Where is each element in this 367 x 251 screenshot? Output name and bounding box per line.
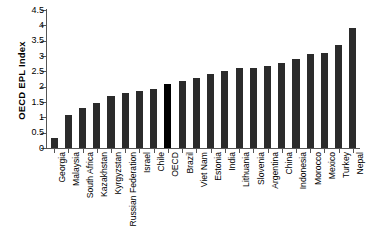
bar <box>93 103 100 148</box>
chart-container: OECD EPL Index 4.543.532.521.510.50 Geor… <box>0 0 367 251</box>
bar <box>264 66 271 148</box>
x-axis-tick-label: Kazakhstan <box>100 152 109 197</box>
bar-series <box>47 10 360 148</box>
x-axis-tick-label: OECD <box>171 152 180 177</box>
x-axis-tick-label: Indonesia <box>299 152 308 189</box>
bar <box>349 28 356 148</box>
x-axis-tick-label: Georgia <box>58 152 67 183</box>
bar <box>107 96 114 148</box>
bar <box>164 84 171 148</box>
bar <box>250 68 257 148</box>
y-axis-tick-label: 2.5 <box>4 67 44 76</box>
bar <box>122 93 129 148</box>
y-axis-tick-label: 0 <box>4 144 44 153</box>
x-axis-tick-label: Morocco <box>314 152 323 185</box>
y-axis-tick-label: 1.5 <box>4 98 44 107</box>
x-axis-tick-label: China <box>285 152 294 174</box>
bar <box>236 68 243 148</box>
x-axis-tick-label: Brazil <box>186 152 195 174</box>
x-axis-tick-label: Viet Nam <box>200 152 209 187</box>
y-axis-tick-label: 1 <box>4 113 44 122</box>
x-axis-tick-label: Argentina <box>271 152 280 189</box>
x-axis-tick-label: India <box>228 152 237 171</box>
x-axis-tick-label: Slovenia <box>257 152 266 185</box>
bar <box>335 45 342 148</box>
bar <box>321 53 328 148</box>
bar <box>65 115 72 148</box>
y-axis-tick-label: 2 <box>4 82 44 91</box>
y-axis-tick-label: 3 <box>4 52 44 61</box>
y-axis-tick-label: 4.5 <box>4 6 44 15</box>
y-axis-tick-label: 4 <box>4 21 44 30</box>
bar <box>150 89 157 148</box>
bar <box>278 63 285 148</box>
x-axis-tick-label: Kyrgyzstan <box>114 152 123 195</box>
x-axis-tick-label: Israel <box>143 152 152 173</box>
bar <box>136 91 143 148</box>
x-axis-tick-label: Nepal <box>356 152 365 174</box>
x-axis-tick-label: Chile <box>157 152 166 172</box>
bar <box>207 74 214 148</box>
bar <box>51 138 58 148</box>
bar <box>193 78 200 148</box>
x-axis-tick-label: Lithuania <box>242 152 251 187</box>
x-axis-line <box>46 148 360 149</box>
bar <box>292 59 299 148</box>
x-axis-tick-label: Estonia <box>214 152 223 181</box>
x-axis-labels: GeorgiaMalaysiaSouth AfricaKazakhstanKyr… <box>47 152 360 251</box>
x-axis-tick-label: Mexico <box>328 152 337 179</box>
y-axis-tick-label: 0.5 <box>4 128 44 137</box>
bar <box>221 71 228 148</box>
y-axis-tick-label: 3.5 <box>4 36 44 45</box>
bar <box>179 81 186 148</box>
x-axis-tick-label: Malaysia <box>72 152 81 186</box>
x-axis-tick-label: Turkey <box>342 152 351 178</box>
bar <box>307 54 314 148</box>
x-axis-tick-label: South Africa <box>86 152 95 198</box>
y-axis-title: OECD EPL Index <box>16 16 27 146</box>
bar <box>79 108 86 148</box>
x-axis-tick-label: Russian Federation <box>129 152 138 227</box>
